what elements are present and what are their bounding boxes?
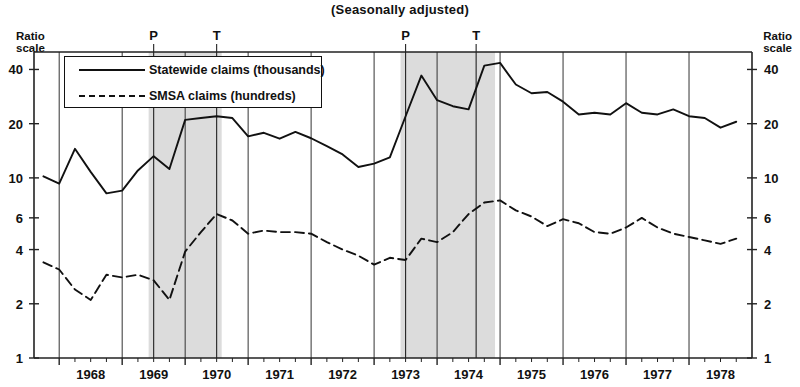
- y-tick-label: 4: [764, 243, 772, 258]
- y-tick-label: 1: [764, 351, 771, 366]
- y-tick-label: 4: [16, 243, 24, 258]
- turning-point-label: T: [213, 28, 221, 43]
- legend-item-statewide: Statewide claims (thousands): [65, 57, 321, 83]
- solid-line-swatch-icon: [75, 64, 149, 76]
- y-tick-label: 40: [9, 62, 23, 77]
- turning-point-label: P: [149, 28, 158, 43]
- y-tick-label: 10: [9, 171, 23, 186]
- x-tick-label: 1977: [643, 367, 672, 382]
- turning-point-label: P: [401, 28, 410, 43]
- y-tick-label: 6: [764, 211, 771, 226]
- legend-label-smsa: SMSA claims (hundreds): [149, 89, 296, 103]
- legend-label-statewide: Statewide claims (thousands): [149, 63, 325, 77]
- y-tick-label: 6: [16, 211, 23, 226]
- y-tick-label: 20: [9, 117, 23, 132]
- y-tick-label: 20: [764, 117, 778, 132]
- y-tick-label: 2: [16, 297, 23, 312]
- series-line-smsa: [43, 200, 736, 300]
- y-tick-label: 1: [16, 351, 23, 366]
- legend-item-smsa: SMSA claims (hundreds): [65, 83, 321, 109]
- chart-legend: Statewide claims (thousands) SMSA claims…: [64, 56, 322, 108]
- x-tick-label: 1978: [706, 367, 735, 382]
- x-tick-label: 1976: [580, 367, 609, 382]
- dashed-line-swatch-icon: [75, 90, 149, 102]
- x-tick-label: 1969: [139, 367, 168, 382]
- turning-point-label: T: [472, 28, 480, 43]
- chart-page: (Seasonally adjusted) Ratio scale Ratio …: [0, 0, 800, 387]
- y-tick-label: 10: [764, 171, 778, 186]
- x-tick-label: 1968: [76, 367, 105, 382]
- x-tick-label: 1971: [265, 367, 294, 382]
- x-tick-label: 1975: [517, 367, 546, 382]
- x-tick-label: 1970: [202, 367, 231, 382]
- y-tick-label: 2: [764, 297, 771, 312]
- x-tick-label: 1974: [454, 367, 484, 382]
- y-tick-label: 40: [764, 62, 778, 77]
- shaded-band: [401, 52, 495, 358]
- x-tick-label: 1973: [391, 367, 420, 382]
- x-tick-label: 1972: [328, 367, 357, 382]
